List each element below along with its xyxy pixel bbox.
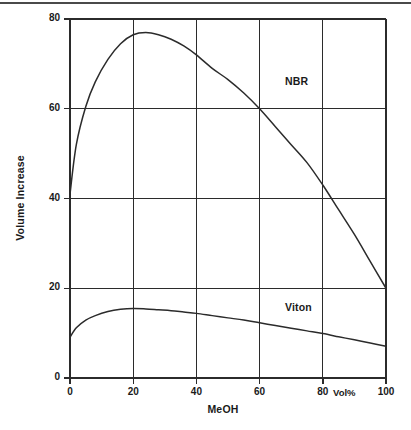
y-axis-title: Volume Increase: [14, 133, 26, 263]
y-tick-label: 20: [34, 281, 60, 292]
x-tick-label: 0: [55, 386, 85, 397]
chart-figure: 020406080 020406080100 NBRViton Vol% Vol…: [0, 0, 411, 430]
y-tick-label: 60: [34, 102, 60, 113]
x-tick-label: 40: [181, 386, 211, 397]
x-axis-unit-label: Vol%: [333, 387, 356, 398]
x-tick-label: 100: [371, 386, 401, 397]
gridlines: [70, 19, 386, 378]
data-curves: [70, 32, 386, 346]
curve-viton: [70, 308, 386, 346]
axis-ticks: [64, 19, 386, 384]
series-label-nbr: NBR: [285, 75, 308, 87]
y-tick-label: 80: [34, 12, 60, 23]
series-label-viton: Viton: [285, 301, 312, 313]
x-tick-label: 20: [118, 386, 148, 397]
y-tick-label: 40: [34, 192, 60, 203]
chart-plot-svg: [0, 0, 411, 430]
x-axis-title: MeOH: [158, 403, 288, 415]
y-tick-label: 0: [34, 371, 60, 382]
x-tick-label: 60: [245, 386, 275, 397]
curve-nbr: [70, 32, 386, 288]
